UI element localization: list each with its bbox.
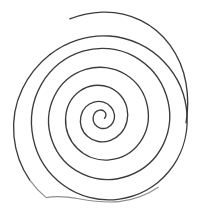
spiral-drawing: Spiral [0, 0, 199, 211]
sketch-canvas: Spiral [0, 0, 199, 211]
